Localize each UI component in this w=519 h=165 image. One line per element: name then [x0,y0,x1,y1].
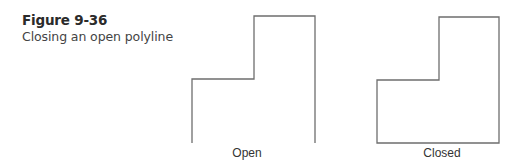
open-label: Open [232,146,261,160]
closed-label: Closed [423,146,460,160]
open-polyline [192,16,315,143]
open-polyline-panel: Open [192,16,315,160]
closed-polyline [377,17,499,143]
closed-polyline-panel: Closed [377,17,499,160]
polyline-diagram: Open Closed [0,0,519,165]
